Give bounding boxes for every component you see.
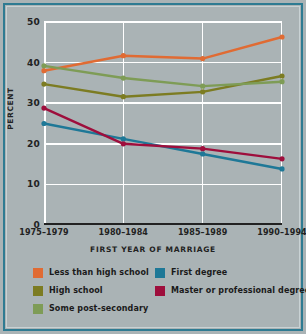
y-tick-label: 40 (8, 58, 40, 68)
x-tick-label: 1980–1984 (85, 228, 161, 237)
data-point (279, 73, 284, 78)
series-layer (44, 22, 282, 223)
legend-color-swatch (33, 268, 43, 278)
data-point (41, 121, 46, 126)
series-line (44, 37, 282, 71)
data-point (121, 53, 126, 58)
legend-column-right: First degreeMaster or professional degre… (155, 264, 306, 300)
x-tick-label: 1990–1994 (244, 228, 306, 237)
data-point (200, 56, 205, 61)
series-high-school (41, 73, 284, 99)
x-tick-label: 1985–1989 (165, 228, 241, 237)
data-point (121, 136, 126, 141)
legend-item[interactable]: Less than high school (33, 264, 149, 281)
legend-color-swatch (33, 304, 43, 314)
legend-item[interactable]: Some post-secondary (33, 300, 149, 317)
series-master-or-professional-degree (41, 105, 284, 161)
data-point (121, 75, 126, 80)
data-point (121, 94, 126, 99)
y-tick-label: 50 (8, 17, 40, 27)
data-point (200, 84, 205, 89)
data-point (41, 68, 46, 73)
series-less-than-high-school (41, 34, 284, 73)
data-point (41, 82, 46, 87)
data-point (200, 151, 205, 156)
legend-item-label: Some post-secondary (49, 304, 148, 313)
data-point (200, 146, 205, 151)
x-axis-title: FIRST YEAR OF MARRIAGE (0, 245, 306, 254)
legend-color-swatch (155, 268, 165, 278)
data-point (121, 141, 126, 146)
y-tick-label: 10 (8, 179, 40, 189)
data-point (279, 79, 284, 84)
plot-area (44, 22, 282, 223)
series-line (44, 76, 282, 97)
legend-item-label: Master or professional degree (171, 286, 306, 295)
chart-figure: 50 40 30 20 10 0 PERCENT 1975–1979 1980–… (0, 0, 306, 334)
x-tick-label: 1975–1979 (6, 228, 82, 237)
legend-item[interactable]: Master or professional degree (155, 282, 306, 299)
chart-legend: Less than high schoolHigh schoolSome pos… (33, 264, 299, 320)
legend-color-swatch (155, 286, 165, 296)
legend-item[interactable]: High school (33, 282, 149, 299)
x-axis-line (44, 223, 282, 225)
legend-item-label: First degree (171, 268, 227, 277)
data-point (200, 89, 205, 94)
data-point (279, 34, 284, 39)
y-axis-title: PERCENT (6, 77, 15, 141)
data-point (41, 63, 46, 68)
data-point (279, 166, 284, 171)
legend-item[interactable]: First degree (155, 264, 306, 281)
data-point (41, 105, 46, 110)
legend-color-swatch (33, 286, 43, 296)
series-some-post-secondary (41, 63, 284, 89)
legend-item-label: Less than high school (49, 268, 149, 277)
data-point (279, 156, 284, 161)
series-line (44, 66, 282, 86)
legend-column-left: Less than high schoolHigh schoolSome pos… (33, 264, 149, 318)
series-line (44, 108, 282, 159)
legend-item-label: High school (49, 286, 103, 295)
